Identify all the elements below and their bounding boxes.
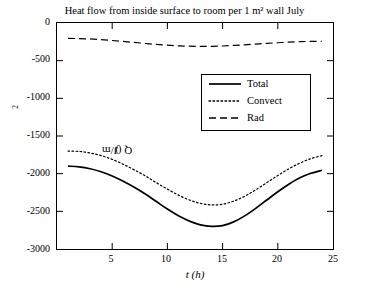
y-tick-label-1: -500 bbox=[0, 53, 50, 64]
series-line-total bbox=[68, 166, 322, 226]
legend-item-total: Total bbox=[202, 75, 310, 92]
legend: Total Convect Rad bbox=[201, 74, 311, 131]
x-tick-label-0: 5 bbox=[96, 253, 126, 264]
y-axis-label-exponent: 2 bbox=[11, 105, 20, 109]
series-line-rad bbox=[68, 38, 322, 46]
y-tick-label-6: -3000 bbox=[0, 243, 50, 254]
series-line-convect bbox=[68, 151, 322, 205]
legend-item-convect: Convect bbox=[202, 92, 310, 109]
y-tick-label-4: -2000 bbox=[0, 167, 50, 178]
legend-label-rad: Rad bbox=[247, 112, 264, 123]
legend-item-rad: Rad bbox=[202, 109, 310, 126]
x-axis-ticks bbox=[112, 23, 278, 249]
x-axis-label: t (h) bbox=[56, 268, 334, 280]
legend-symbol-convect bbox=[208, 95, 242, 107]
legend-symbol-total bbox=[208, 78, 242, 90]
y-tick-label-2: -1000 bbox=[0, 91, 50, 102]
x-tick-label-1: 10 bbox=[151, 253, 181, 264]
figure: Heat flow from inside surface to room pe… bbox=[0, 0, 369, 299]
y-tick-label-0: 0 bbox=[0, 16, 50, 27]
legend-label-total: Total bbox=[247, 78, 268, 89]
x-tick-label-2: 15 bbox=[207, 253, 237, 264]
y-axis-label: Q (J/m2) bbox=[2, 0, 18, 228]
plot-area bbox=[56, 22, 334, 250]
x-tick-label-3: 20 bbox=[262, 253, 292, 264]
legend-symbol-rad bbox=[208, 112, 242, 124]
y-tick-label-3: -1500 bbox=[0, 129, 50, 140]
plot-svg bbox=[57, 23, 333, 249]
chart-title: Heat flow from inside surface to room pe… bbox=[0, 5, 369, 16]
y-tick-label-5: -2500 bbox=[0, 205, 50, 216]
x-tick-label-4: 25 bbox=[318, 253, 348, 264]
legend-label-convect: Convect bbox=[247, 95, 282, 106]
